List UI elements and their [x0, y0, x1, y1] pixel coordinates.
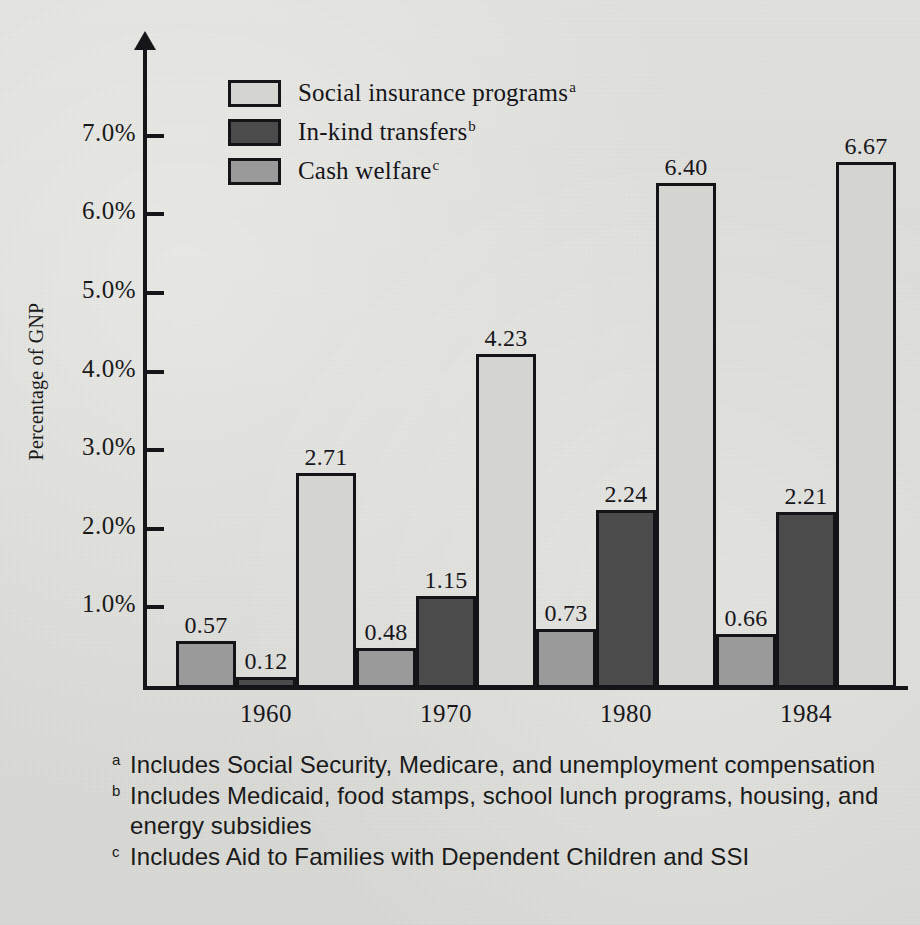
legend-footnote-marker: c: [433, 157, 440, 173]
y-axis-tick-mark: [147, 370, 164, 374]
bar: [776, 512, 836, 688]
y-axis-tick-label: 2.0%: [36, 512, 136, 538]
y-axis-tick-mark: [147, 291, 164, 295]
y-axis-tick-mark: [147, 605, 164, 609]
legend-item-label-text: Social insurance programs: [298, 79, 568, 106]
footnote-marker: b: [112, 776, 120, 806]
y-axis-tick-label-text: 7.0%: [50, 119, 136, 147]
footnote-marker: a: [112, 745, 120, 775]
y-axis-tick-label-text: 4.0%: [50, 355, 136, 383]
legend-footnote-marker: a: [569, 79, 576, 95]
y-axis-tick-label: 7.0%: [36, 119, 136, 145]
bar-value-label: 2.71: [280, 444, 372, 471]
y-axis-tick-label: 3.0%: [36, 433, 136, 459]
bar: [536, 629, 596, 688]
y-axis-tick-label-text: 6.0%: [50, 197, 136, 225]
bar-value-label: 0.57: [160, 612, 252, 639]
bar: [476, 354, 536, 688]
plot-area: Percentage of GNP 1.0%2.0%3.0%4.0%5.0%6.…: [0, 0, 920, 745]
footnote: bIncludes Medicaid, food stamps, school …: [112, 781, 902, 841]
legend-item-label: In-kind transfersb: [298, 118, 476, 146]
y-axis-tick-mark: [147, 212, 164, 216]
footnote-text: Includes Medicaid, food stamps, school l…: [130, 782, 878, 839]
bar: [296, 473, 356, 688]
y-axis-tick-mark: [147, 134, 164, 138]
legend-item-label-text: Cash welfare: [298, 157, 432, 184]
legend-swatch-icon: [228, 119, 281, 146]
chart-legend: Social insurance programsaIn-kind transf…: [228, 76, 648, 193]
legend-item-label: Social insurance programsa: [298, 79, 576, 107]
legend-item: In-kind transfersb: [228, 115, 648, 149]
footnote-text: Includes Aid to Families with Dependent …: [130, 843, 749, 870]
legend-item-label: Cash welfarec: [298, 157, 439, 185]
legend-swatch-icon: [228, 158, 281, 185]
y-axis-tick-label: 4.0%: [36, 355, 136, 381]
bar-value-label: 6.67: [820, 133, 912, 160]
y-axis-tick-label: 1.0%: [36, 590, 136, 616]
y-axis-tick-label: 5.0%: [36, 276, 136, 302]
legend-footnote-marker: b: [468, 118, 476, 134]
legend-item: Social insurance programsa: [228, 76, 648, 110]
y-axis-tick-label: 6.0%: [36, 197, 136, 223]
legend-swatch-icon: [228, 80, 281, 107]
bar: [356, 648, 416, 688]
y-axis-tick-label-text: 3.0%: [50, 433, 136, 461]
y-axis-tick-label-text: 5.0%: [50, 276, 136, 304]
legend-item: Cash welfarec: [228, 154, 648, 188]
bar-value-label: 4.23: [460, 325, 552, 352]
footnote-marker: c: [112, 837, 120, 867]
bar: [596, 510, 656, 688]
bar: [836, 162, 896, 688]
bar-value-label: 6.40: [640, 154, 732, 181]
y-axis-tick-mark: [147, 527, 164, 531]
x-axis-tick-label: 1984: [696, 700, 916, 728]
y-axis-tick-mark: [147, 448, 164, 452]
bar: [416, 596, 476, 688]
footnote-text: Includes Social Security, Medicare, and …: [130, 751, 875, 778]
footnote-list: aIncludes Social Security, Medicare, and…: [112, 750, 902, 873]
y-axis-tick-label-text: 2.0%: [50, 512, 136, 540]
bar: [236, 677, 296, 688]
footnote: cIncludes Aid to Families with Dependent…: [112, 842, 902, 872]
y-axis-tick-label-text: 1.0%: [50, 590, 136, 618]
bar: [716, 634, 776, 688]
legend-item-label-text: In-kind transfers: [298, 118, 467, 145]
footnote: aIncludes Social Security, Medicare, and…: [112, 750, 902, 780]
y-axis-line: [143, 44, 147, 690]
figure-chart-welfare-spending: Percentage of GNP 1.0%2.0%3.0%4.0%5.0%6.…: [0, 0, 920, 925]
